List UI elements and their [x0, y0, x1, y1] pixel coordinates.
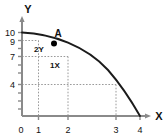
y-tick-label-4: 4 — [10, 80, 15, 90]
x-tick-label-3: 3 — [113, 125, 118, 135]
y-axis-title: Y — [24, 3, 32, 15]
data-point-a[interactable] — [51, 41, 57, 47]
x-tick-label-4: 4 — [137, 125, 142, 135]
point-label-a: A — [54, 28, 61, 39]
annotation-2y: 2Y — [34, 45, 44, 54]
x-tick-label-1: 1 — [36, 125, 41, 135]
annotation-1x: 1X — [50, 61, 60, 70]
x-tick-label-2: 2 — [65, 125, 70, 135]
y-tick-label-9: 9 — [10, 37, 15, 47]
x-axis-title: X — [155, 110, 163, 122]
x-tick-label-0: 0 — [18, 125, 23, 135]
chart-canvas: 10 9 7 4 0 1 2 3 4 Y X A 2Y 1X — [0, 0, 165, 139]
ppf-chart: 10 9 7 4 0 1 2 3 4 Y X A 2Y 1X — [0, 0, 165, 139]
y-tick-label-7: 7 — [10, 52, 15, 62]
